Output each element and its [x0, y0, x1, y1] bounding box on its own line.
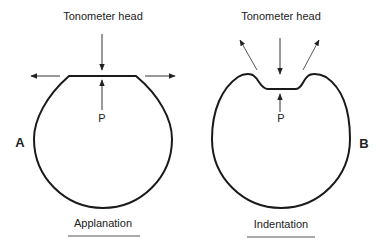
panel-letter-a: A — [15, 135, 25, 150]
displacement-arrow-left — [240, 40, 257, 70]
panel-letter-b: B — [359, 136, 368, 151]
tonometer-head-label-a: Tonometer head — [63, 10, 143, 22]
panel-indentation: Tonometer head P B Indentation — [212, 10, 369, 237]
panel-applanation: Tonometer head P A Applanation — [15, 10, 175, 236]
displacement-arrow-right — [303, 40, 319, 70]
eye-outline-applanation — [34, 76, 172, 208]
pressure-label-b: P — [277, 112, 284, 124]
tonometry-diagram: Tonometer head P A Applanation Tonometer… — [0, 0, 379, 246]
tonometer-head-label-b: Tonometer head — [241, 10, 321, 22]
caption-applanation: Applanation — [74, 217, 132, 229]
pressure-label-a: P — [98, 112, 105, 124]
caption-indentation: Indentation — [254, 218, 308, 230]
eye-outline-indentation — [212, 74, 350, 208]
